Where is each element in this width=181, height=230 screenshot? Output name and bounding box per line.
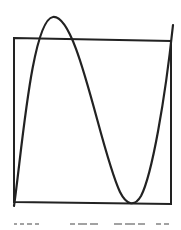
caption-illegible: [14, 222, 39, 226]
caption-illegible-2: [70, 222, 98, 226]
cubic-curve: [14, 17, 173, 206]
caption-illegible-4: [156, 222, 169, 226]
caption-illegible-3: [114, 222, 145, 226]
diagram-canvas: [0, 0, 181, 230]
